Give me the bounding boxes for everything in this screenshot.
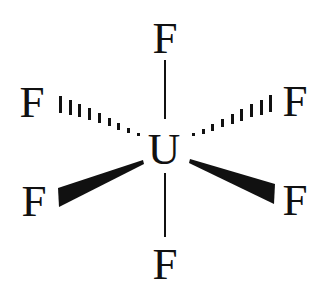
- bond-upper-left-hashed: [59, 96, 140, 136]
- atom-f-top: F: [145, 16, 185, 61]
- bond-lower-left-wedge: [58, 160, 144, 207]
- atom-f-bottom: F: [145, 242, 185, 287]
- uf6-structure-diagram: F F F U F F F: [0, 0, 322, 298]
- atom-f-lower-left: F: [14, 179, 54, 224]
- bond-upper-right-hashed: [192, 95, 272, 136]
- atom-u-center: U: [144, 127, 184, 172]
- atom-f-upper-right: F: [275, 79, 315, 124]
- atom-f-upper-left: F: [12, 80, 52, 125]
- bond-lower-right-wedge: [189, 159, 275, 204]
- atom-f-lower-right: F: [275, 178, 315, 223]
